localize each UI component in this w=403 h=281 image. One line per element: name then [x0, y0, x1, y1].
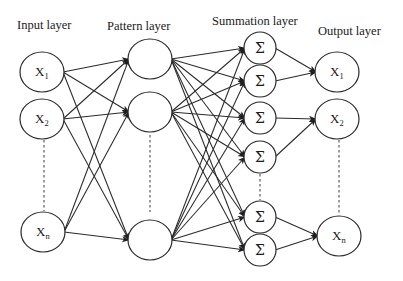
label-output-layer: Output layer — [318, 24, 382, 38]
edge-in1-p1 — [63, 59, 129, 72]
input-node-2: X2 — [20, 99, 64, 139]
summation-node-6: Σ — [244, 234, 276, 266]
edge-p2-s3 — [171, 112, 245, 118]
edge-pn-s1 — [171, 48, 245, 240]
label-summation-layer: Summation layer — [212, 14, 299, 28]
edge-s6-on — [275, 236, 318, 250]
edge-s2-o1 — [275, 72, 316, 81]
summation-node-1: Σ — [244, 32, 276, 64]
sigma-icon: Σ — [255, 110, 265, 126]
connections — [63, 48, 318, 250]
edge-in1-p2 — [63, 72, 129, 112]
edge-p1-s5 — [171, 59, 245, 217]
pattern-node-1 — [128, 39, 172, 79]
edge-inn-p1 — [64, 59, 129, 232]
edge-pn-s4 — [171, 157, 245, 240]
input-node-1: X1 — [20, 52, 64, 92]
summation-node-2: Σ — [244, 65, 276, 97]
edge-in2-p1 — [63, 59, 129, 119]
edge-p2-s6 — [171, 112, 245, 250]
edge-s4-o2 — [275, 119, 316, 157]
label-pattern-layer: Pattern layer — [107, 19, 171, 33]
edge-pn-s6 — [171, 240, 245, 250]
edge-p1-s4 — [171, 59, 245, 157]
summation-node-5: Σ — [244, 201, 276, 233]
sigma-icon: Σ — [255, 73, 265, 89]
edge-p2-s5 — [171, 112, 245, 217]
edge-p2-s4 — [171, 112, 245, 157]
edge-in2-p2 — [63, 112, 129, 119]
input-node-3: Xn — [21, 212, 65, 252]
layer-labels: Input layer Pattern layer Summation laye… — [17, 14, 382, 38]
edge-in2-pn — [63, 119, 129, 240]
output-node-3: Xn — [317, 216, 361, 256]
output-node-1: X1 — [315, 52, 359, 92]
output-node-2: X2 — [315, 99, 359, 139]
pattern-node-2 — [128, 92, 172, 132]
ellipsis-markers — [44, 135, 339, 214]
label-input-layer: Input layer — [17, 18, 72, 32]
sigma-icon: Σ — [255, 242, 265, 258]
edge-inn-pn — [64, 232, 129, 240]
sigma-icon: Σ — [255, 149, 265, 165]
sigma-icon: Σ — [255, 209, 265, 225]
edge-s5-on — [275, 217, 318, 236]
pnn-diagram: X1X2XnX1X2XnΣΣΣΣΣΣ Input layer Pattern l… — [0, 0, 403, 281]
edge-s3-o2 — [275, 118, 316, 119]
sigma-icon: Σ — [255, 40, 265, 56]
edge-s1-o1 — [275, 48, 316, 72]
pattern-node-3 — [128, 220, 172, 260]
summation-node-4: Σ — [244, 141, 276, 173]
edge-pn-s2 — [171, 81, 245, 240]
summation-node-3: Σ — [244, 102, 276, 134]
